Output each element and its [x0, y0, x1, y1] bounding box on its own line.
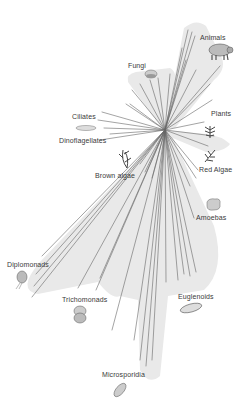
label-animals: Animals — [200, 34, 226, 41]
lower-shade — [27, 134, 218, 380]
label-fungi: Fungi — [128, 62, 146, 69]
clade-shading — [27, 22, 230, 379]
label-amoebas: Amoebas — [196, 214, 226, 221]
label-ciliates: Ciliates — [72, 113, 96, 120]
label-diplomonads: Diplomonads — [7, 261, 49, 268]
label-plants: Plants — [211, 110, 231, 117]
label-red-algae: Red Algae — [199, 166, 232, 173]
label-brown-algae: Brown algae — [95, 172, 135, 179]
euglenoid-icon — [179, 301, 202, 314]
label-microsporidia: Microsporidia — [102, 371, 145, 378]
trichomonad-icon — [74, 306, 86, 323]
label-trichomonads: Trichomonads — [62, 296, 107, 303]
ciliate-icon — [76, 126, 96, 131]
phylogenetic-tree — [0, 0, 251, 407]
seaweed-icon — [119, 150, 131, 168]
diplomonad-icon — [16, 271, 27, 289]
amoeba-icon — [207, 199, 220, 210]
microsporidia-icon — [112, 381, 128, 398]
label-dinoflagellates: Dinoflagellates — [59, 137, 106, 144]
label-euglenoids: Euglenoids — [178, 293, 214, 300]
mushroom-icon — [145, 70, 157, 78]
